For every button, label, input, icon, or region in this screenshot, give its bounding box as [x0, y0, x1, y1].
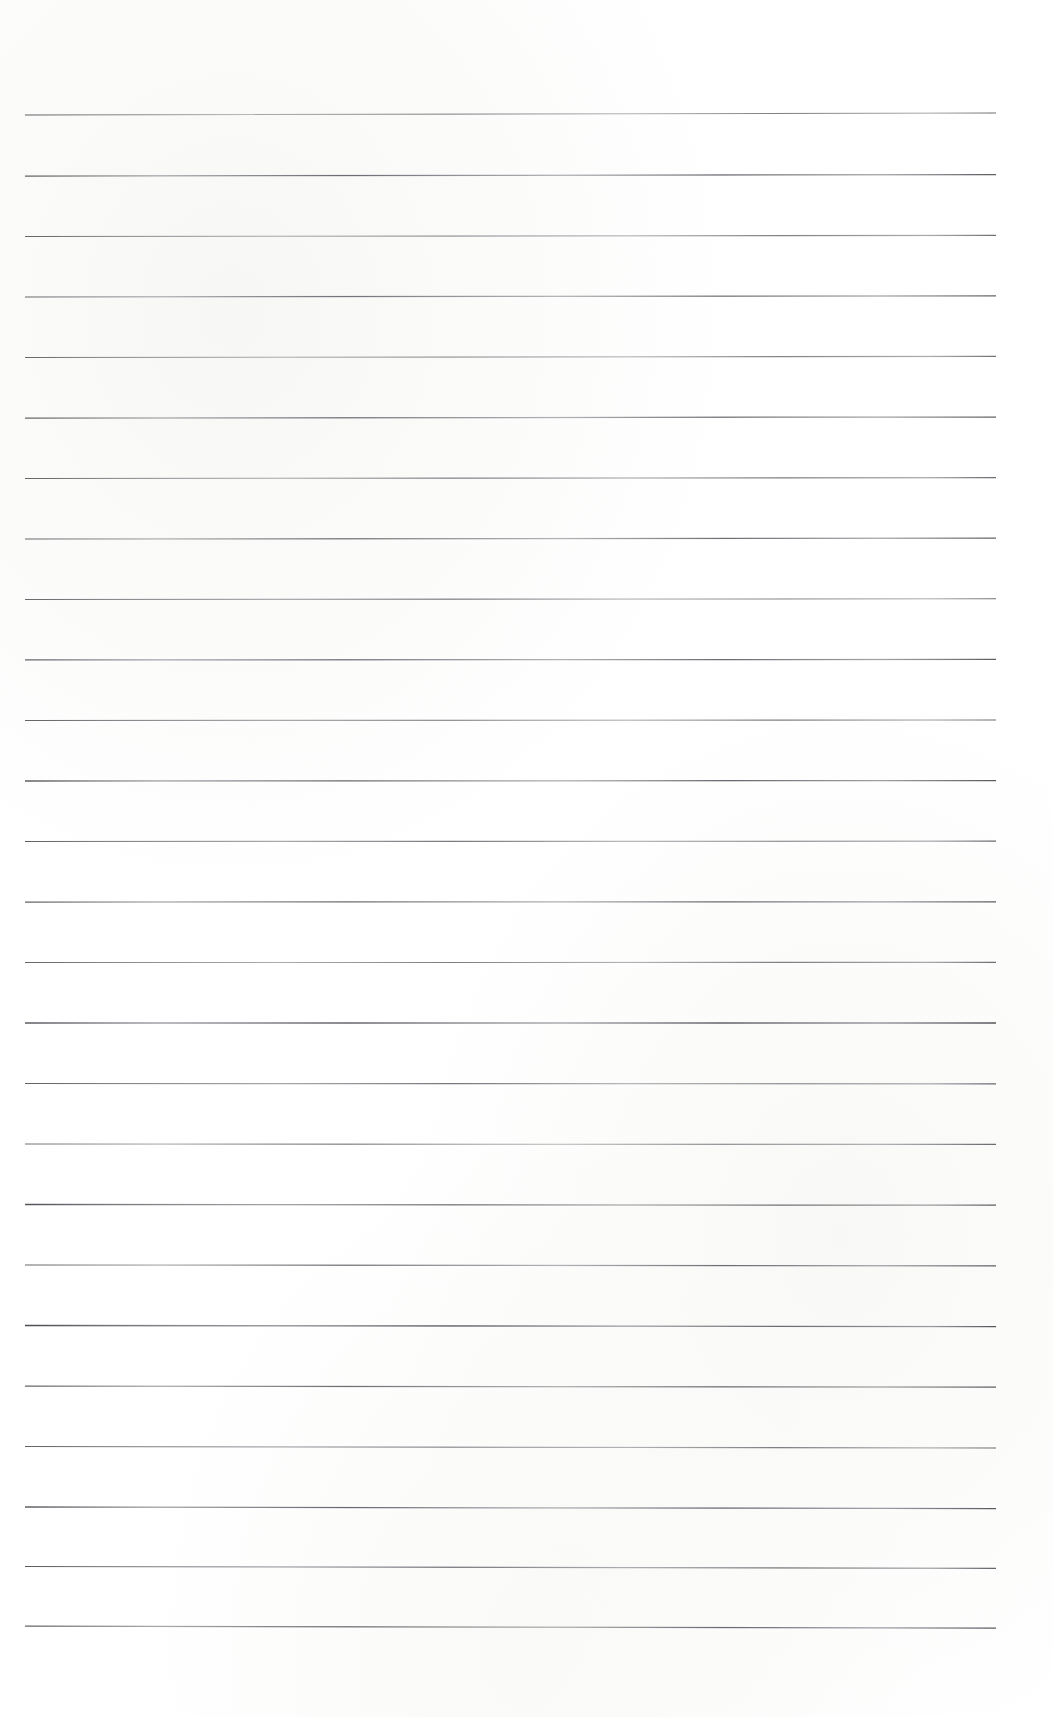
writing-area[interactable]	[25, 115, 996, 1628]
notebook-page	[0, 0, 1053, 1717]
